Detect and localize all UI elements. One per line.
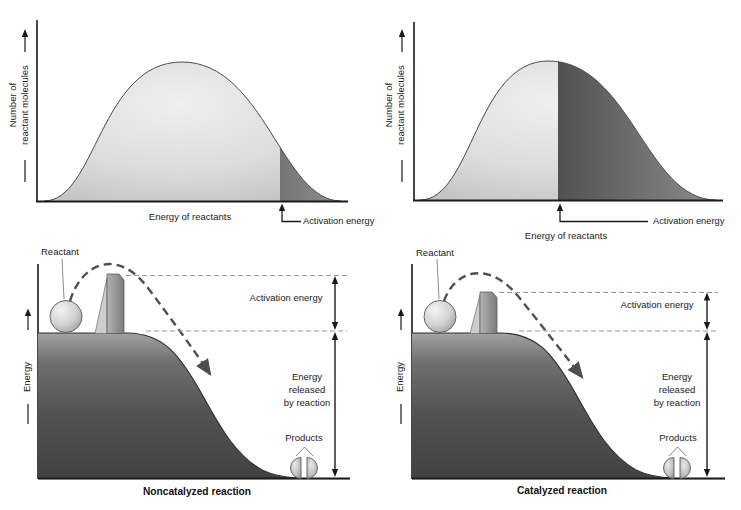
figure-activation-energy: Number of reactant molecules Number of r… [0, 0, 741, 510]
tl-y-axis-label: Number of reactant molecules [7, 30, 31, 180]
bl-released-arrowhead-top-icon [332, 332, 338, 340]
bl-released-line1: Energy [262, 371, 352, 384]
br-released-arrowhead-top-icon [704, 332, 710, 340]
bl-reactant-label: Reactant [20, 246, 100, 258]
bl-released-line3: by reaction [262, 397, 352, 410]
bl-barrier-ramp [95, 278, 107, 334]
br-reactant-ball [424, 301, 456, 333]
br-reactant-label: Reactant [395, 247, 475, 259]
br-caption: Catalyzed reaction [462, 485, 662, 497]
br-released-line3: by reaction [632, 397, 722, 410]
bl-energy-arrowhead-icon [25, 309, 31, 317]
bl-product-half-left [291, 458, 302, 479]
br-energy-arrowhead-icon [398, 309, 404, 317]
br-released-arrowhead-bottom-icon [704, 469, 710, 477]
br-products-label: Products [643, 432, 713, 444]
bl-activation-arrowhead-bottom-icon [332, 322, 338, 330]
br-activation-arrowhead-bottom-icon [704, 322, 710, 330]
tr-activation-arrowhead-icon [557, 204, 563, 212]
bl-activation-arrowhead-top-icon [332, 276, 338, 284]
bl-reactant-pointer-line [62, 259, 64, 299]
bl-products-pointer-lines [296, 447, 313, 456]
br-activation-label: Activation energy [602, 299, 712, 311]
tr-distribution-chart [399, 22, 723, 222]
tr-x-axis-label: Energy of reactants [486, 230, 646, 242]
tr-activation-pointer-line [560, 208, 648, 222]
br-released-line2: released [632, 384, 722, 397]
br-energy-diagram [398, 259, 725, 480]
tl-y-axis-label-line1: Number of [7, 30, 19, 180]
br-released-line1: Energy [632, 371, 722, 384]
bl-reactant-ball [50, 301, 82, 333]
br-products-pointer-lines [669, 447, 686, 456]
tr-activation-label: Activation energy [653, 216, 724, 228]
bl-product-half-right [307, 458, 318, 479]
bl-released-line2: released [262, 384, 352, 397]
tr-y-axis-label-line2: reactant molecules [395, 30, 407, 180]
bl-released-arrowhead-bottom-icon [332, 469, 338, 477]
bl-activation-label: Activation energy [231, 292, 341, 304]
tr-y-axis-label: Number of reactant molecules [383, 30, 407, 180]
br-barrier-slab [480, 292, 497, 334]
br-product-half-left [664, 458, 675, 479]
bl-caption: Noncatalyzed reaction [97, 486, 297, 498]
tl-distribution-chart [22, 20, 348, 222]
tl-y-axis-label-line2: reactant molecules [19, 30, 31, 180]
bl-products-label: Products [269, 432, 339, 444]
br-product-half-right [680, 458, 691, 479]
tl-activation-pointer-line [282, 208, 301, 222]
bl-barrier-slab [107, 274, 124, 334]
tl-activation-arrowhead-icon [279, 204, 285, 212]
br-reactant-pointer-line [437, 259, 439, 299]
tl-x-axis-label: Energy of reactants [110, 211, 270, 223]
br-released-label: Energy released by reaction [632, 371, 722, 409]
br-y-axis-label: Energy [394, 327, 406, 427]
br-barrier-ramp [470, 295, 480, 334]
diagram-artwork [0, 0, 741, 510]
bl-y-axis-label: Energy [21, 327, 33, 427]
bl-released-label: Energy released by reaction [262, 371, 352, 409]
tr-y-axis-label-line1: Number of [383, 30, 395, 180]
tl-activation-label: Activation energy [303, 216, 374, 228]
